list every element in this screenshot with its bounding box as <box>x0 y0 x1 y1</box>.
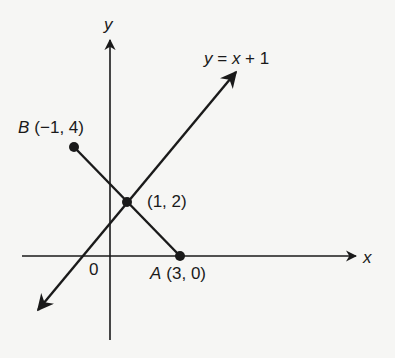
line-equation-label: y = x + 1 <box>203 49 269 68</box>
point-B <box>69 142 79 152</box>
y-axis-label: y <box>103 15 114 34</box>
x-axis-label: x <box>362 248 372 267</box>
point-intersection <box>122 197 132 207</box>
intersection-label: (1, 2) <box>147 192 187 211</box>
origin-label: 0 <box>89 260 98 279</box>
coordinate-diagram: y x 0 y = x + 1 B(−1, 4) (1, 2) A(3, 0) <box>0 0 395 358</box>
point-A <box>175 251 185 261</box>
line-y-equals-x-plus-1 <box>38 72 236 310</box>
point-B-label: B(−1, 4) <box>18 118 84 137</box>
point-A-label: A(3, 0) <box>149 264 206 283</box>
